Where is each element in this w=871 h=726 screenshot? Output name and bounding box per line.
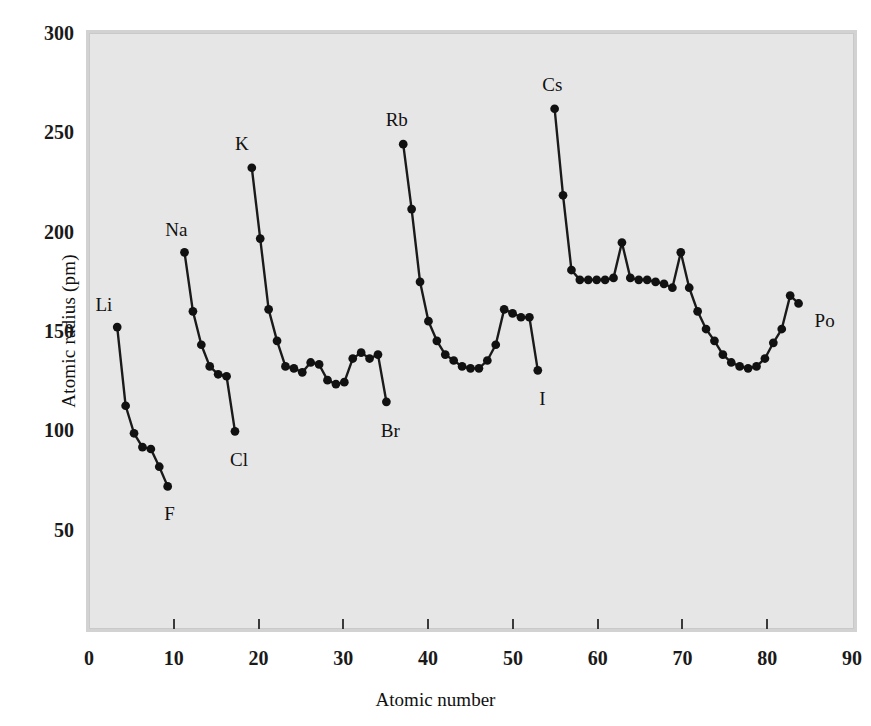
data-point xyxy=(491,340,500,349)
x-axis-tick-mark xyxy=(342,619,344,629)
x-axis-tick-label: 20 xyxy=(229,648,289,668)
x-axis-tick-mark xyxy=(766,619,768,629)
data-point xyxy=(643,276,652,285)
data-point xyxy=(744,364,753,373)
series-line xyxy=(555,109,799,369)
x-axis-tick-label: 60 xyxy=(568,648,628,668)
data-point xyxy=(466,364,475,373)
data-point xyxy=(727,358,736,367)
x-axis-tick-label: 40 xyxy=(398,648,458,668)
y-axis-tick-label: 50 xyxy=(22,520,74,540)
data-point xyxy=(626,274,635,283)
data-point xyxy=(256,234,265,243)
data-point xyxy=(761,354,770,363)
data-point-label: Cs xyxy=(542,75,562,94)
x-axis-tick-label: 80 xyxy=(737,648,797,668)
data-point xyxy=(550,104,559,113)
data-point xyxy=(424,317,433,326)
x-axis-tick-label: 10 xyxy=(144,648,204,668)
data-point xyxy=(289,364,298,373)
plot-area: LiFNaClKBrRbICsPo xyxy=(86,30,857,632)
data-point xyxy=(432,336,441,345)
x-axis-tick-label: 0 xyxy=(59,648,119,668)
data-point xyxy=(559,191,568,200)
x-axis-tick-label: 70 xyxy=(652,648,712,668)
data-point xyxy=(567,266,576,275)
data-point xyxy=(130,429,139,438)
data-point xyxy=(475,364,484,373)
data-point xyxy=(609,274,618,283)
data-point xyxy=(298,368,307,377)
data-point-label: Na xyxy=(165,220,187,239)
x-axis-tick-mark xyxy=(173,619,175,629)
data-point-label: K xyxy=(235,134,249,153)
y-axis-tick-label: 100 xyxy=(22,420,74,440)
data-point xyxy=(676,248,685,257)
data-point xyxy=(533,366,542,375)
data-point xyxy=(693,307,702,316)
data-point xyxy=(668,283,677,292)
data-point xyxy=(685,283,694,292)
data-point xyxy=(180,248,189,257)
data-point-label: F xyxy=(164,504,175,523)
data-point xyxy=(508,309,517,318)
data-point xyxy=(718,350,727,359)
data-point xyxy=(735,362,744,371)
data-point xyxy=(449,356,458,365)
data-point xyxy=(382,397,391,406)
data-point-label: Br xyxy=(381,421,400,440)
y-axis-tick-label: 150 xyxy=(22,321,74,341)
data-point xyxy=(458,362,467,371)
data-point xyxy=(601,276,610,285)
data-point xyxy=(264,305,273,314)
data-point xyxy=(323,376,332,385)
y-axis-tick-label: 200 xyxy=(22,222,74,242)
data-point xyxy=(702,325,711,334)
data-point xyxy=(315,360,324,369)
data-point xyxy=(660,279,669,288)
data-point xyxy=(575,276,584,285)
data-point xyxy=(214,370,223,379)
data-point xyxy=(483,356,492,365)
data-point xyxy=(222,372,231,381)
x-axis-tick-label: 90 xyxy=(822,648,871,668)
figure-atomic-radius-vs-atomic-number: the atomic radius of an element isthe di… xyxy=(0,0,871,726)
data-point xyxy=(777,325,786,334)
x-axis-tick-mark xyxy=(681,619,683,629)
data-point-label: Po xyxy=(815,311,835,330)
data-point xyxy=(374,350,383,359)
data-point xyxy=(281,362,290,371)
data-point xyxy=(348,354,357,363)
data-point-label: Cl xyxy=(230,450,248,469)
data-point xyxy=(416,277,425,286)
data-point-label: Rb xyxy=(386,110,408,129)
data-point xyxy=(592,276,601,285)
data-point xyxy=(365,354,374,363)
data-point xyxy=(500,305,509,314)
data-point xyxy=(332,380,341,389)
data-point xyxy=(794,299,803,308)
data-point xyxy=(786,291,795,300)
data-point xyxy=(155,462,164,471)
data-series-layer xyxy=(89,33,854,629)
data-point xyxy=(584,276,593,285)
data-point xyxy=(634,276,643,285)
data-point xyxy=(113,323,122,332)
data-point xyxy=(618,238,627,247)
data-point-label: Li xyxy=(95,295,112,314)
data-point xyxy=(525,313,534,322)
x-axis-label: Atomic number xyxy=(0,689,871,711)
data-point xyxy=(163,482,172,491)
x-axis-tick-mark xyxy=(512,619,514,629)
data-point xyxy=(273,336,282,345)
x-axis-tick-label: 50 xyxy=(483,648,543,668)
data-point xyxy=(651,277,660,286)
data-point xyxy=(752,362,761,371)
data-point xyxy=(247,163,256,172)
data-point xyxy=(146,445,155,454)
data-point xyxy=(121,401,130,410)
y-axis-tick-label: 300 xyxy=(22,23,74,43)
data-point xyxy=(769,338,778,347)
data-point-label: I xyxy=(539,389,545,408)
series-line xyxy=(403,144,538,370)
